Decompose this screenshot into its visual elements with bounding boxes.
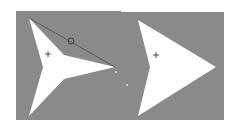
dot — [115, 71, 117, 73]
diagram-canvas — [0, 0, 238, 130]
dot — [126, 84, 128, 86]
